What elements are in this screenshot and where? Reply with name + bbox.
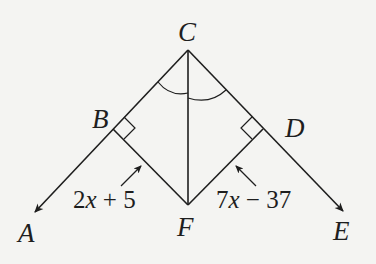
point-label-c: C [178,17,197,47]
right-angle-mark-d [241,117,252,139]
point-label-d: D [284,113,305,143]
segment-label-df: 7x − 37 [216,186,291,213]
angle-arc-bcf [158,82,188,94]
point-label-b: B [92,104,109,134]
point-label-e: E [332,216,350,246]
pointer-arrow-bf [121,166,141,186]
pointer-arrow-df [236,166,256,186]
angle-arc-fcd [188,90,226,100]
geometry-diagram: C B D A F E 2x + 5 7x − 37 [0,0,376,264]
segment-label-bf: 2x + 5 [73,186,136,213]
right-angle-mark-b [124,117,135,139]
point-label-f: F [176,212,194,242]
point-label-a: A [16,218,35,248]
